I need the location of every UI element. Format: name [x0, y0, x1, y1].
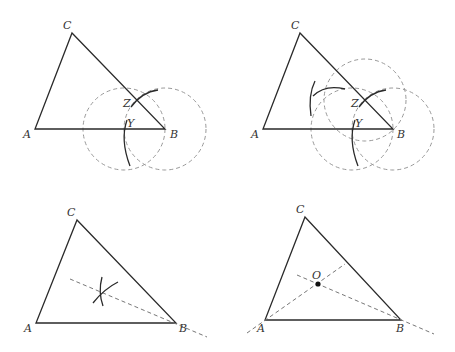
label-z: Z: [350, 97, 359, 110]
label-b: B: [395, 322, 404, 335]
arc-left-1: [310, 81, 315, 116]
label-a: A: [256, 322, 265, 335]
label-c: C: [296, 203, 305, 216]
label-y: Y: [355, 117, 364, 130]
label-a: A: [23, 322, 32, 335]
panel-1: C A B Z Y: [22, 19, 206, 170]
label-y: Y: [127, 117, 136, 130]
label-o: O: [312, 269, 321, 282]
construction-diagram: C A B Z Y C A B Z Y C A B O C: [0, 0, 455, 352]
triangle-abc: [265, 217, 401, 320]
label-a: A: [250, 128, 259, 141]
panel-3: C A B: [23, 206, 207, 337]
arc-cross-2: [93, 282, 118, 303]
label-c: C: [291, 19, 300, 32]
triangle-abc: [36, 220, 176, 323]
triangle-abc: [263, 33, 393, 129]
panel-4: O C A B: [247, 203, 434, 335]
label-b: B: [396, 128, 405, 141]
triangle-abc: [35, 33, 165, 129]
label-c: C: [63, 19, 72, 32]
label-c: C: [67, 206, 76, 219]
label-a: A: [22, 128, 31, 141]
arc-cross-1: [100, 277, 103, 306]
label-b: B: [169, 128, 178, 141]
label-b: B: [178, 322, 187, 335]
incenter-point-o: [315, 281, 320, 286]
panel-2: C A B Z Y: [250, 19, 434, 170]
label-z: Z: [122, 97, 131, 110]
